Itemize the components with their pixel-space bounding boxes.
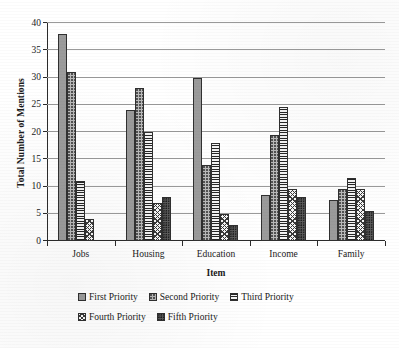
bar-family-fourth bbox=[356, 189, 365, 241]
x-tick-mark bbox=[182, 241, 183, 246]
x-tick-mark bbox=[47, 241, 48, 246]
bar-jobs-second bbox=[67, 72, 76, 241]
y-tick-label: 25 bbox=[32, 100, 42, 110]
y-tick-label: 30 bbox=[32, 73, 42, 83]
bar-income-fifth bbox=[297, 197, 306, 241]
bar-education-second bbox=[202, 165, 211, 241]
legend-label: Fifth Priority bbox=[168, 312, 218, 322]
x-category-jobs: Jobs bbox=[47, 249, 115, 259]
bar-income-third bbox=[279, 107, 288, 241]
plot-area: 0510152025303540 bbox=[47, 23, 385, 241]
x-axis-title: Item bbox=[47, 268, 385, 278]
legend-swatch-fourth-icon bbox=[78, 313, 86, 321]
legend-swatch-third-icon bbox=[230, 293, 238, 301]
x-category-income: Income bbox=[250, 249, 318, 259]
legend-item-fifth: Fifth Priority bbox=[157, 312, 218, 322]
bar-education-third bbox=[211, 143, 220, 241]
legend-swatch-fifth-icon bbox=[157, 313, 165, 321]
legend-item-third: Third Priority bbox=[230, 292, 294, 302]
bar-housing-third bbox=[144, 132, 153, 241]
bar-group-family bbox=[317, 23, 385, 241]
y-tick-label: 10 bbox=[32, 182, 42, 192]
bar-housing-fifth bbox=[162, 197, 171, 241]
bar-family-fifth bbox=[365, 211, 374, 241]
x-tick-mark bbox=[250, 241, 251, 246]
x-axis-category-labels: JobsHousingEducationIncomeFamily bbox=[47, 249, 385, 259]
bar-group-education bbox=[182, 23, 250, 241]
legend-label: Second Priority bbox=[160, 292, 219, 302]
bar-income-first bbox=[261, 195, 270, 241]
legend-item-second: Second Priority bbox=[149, 292, 219, 302]
x-tick-mark bbox=[317, 241, 318, 246]
bar-education-fourth bbox=[220, 214, 229, 241]
bar-groups bbox=[47, 23, 385, 241]
bar-education-fifth bbox=[229, 225, 238, 241]
bar-family-third bbox=[347, 178, 356, 241]
y-tick-label: 20 bbox=[32, 127, 42, 137]
legend-swatch-first-icon bbox=[78, 293, 86, 301]
bar-group-income bbox=[250, 23, 318, 241]
bar-income-fourth bbox=[288, 189, 297, 241]
y-tick-label: 5 bbox=[36, 209, 41, 219]
bar-jobs-first bbox=[58, 34, 67, 241]
legend-item-fourth: Fourth Priority bbox=[78, 312, 146, 322]
chart-legend: First PrioritySecond PriorityThird Prior… bbox=[78, 292, 378, 322]
legend-item-first: First Priority bbox=[78, 292, 138, 302]
legend-label: Third Priority bbox=[241, 292, 294, 302]
bar-education-first bbox=[193, 78, 202, 242]
x-tick-mark bbox=[385, 241, 386, 246]
legend-label: First Priority bbox=[89, 292, 138, 302]
bar-family-second bbox=[338, 189, 347, 241]
x-category-family: Family bbox=[317, 249, 385, 259]
y-tick-label: 40 bbox=[32, 18, 42, 28]
x-category-housing: Housing bbox=[115, 249, 183, 259]
y-tick-label: 15 bbox=[32, 155, 42, 165]
bar-housing-second bbox=[135, 88, 144, 241]
bar-group-jobs bbox=[47, 23, 115, 241]
bar-group-housing bbox=[115, 23, 183, 241]
x-tick-mark bbox=[115, 241, 116, 246]
bar-jobs-third bbox=[76, 181, 85, 241]
legend-swatch-second-icon bbox=[149, 293, 157, 301]
bar-chart: Total Number of Mentions 051015202530354… bbox=[0, 0, 399, 348]
bar-housing-first bbox=[126, 110, 135, 241]
bar-jobs-fourth bbox=[85, 219, 94, 241]
bar-income-second bbox=[270, 135, 279, 241]
y-axis-title: Total Number of Mentions bbox=[16, 43, 26, 223]
bar-family-first bbox=[329, 200, 338, 241]
legend-label: Fourth Priority bbox=[89, 312, 146, 322]
bar-housing-fourth bbox=[153, 203, 162, 241]
y-tick-label: 35 bbox=[32, 46, 42, 56]
y-tick-label: 0 bbox=[36, 236, 41, 246]
x-category-education: Education bbox=[182, 249, 250, 259]
